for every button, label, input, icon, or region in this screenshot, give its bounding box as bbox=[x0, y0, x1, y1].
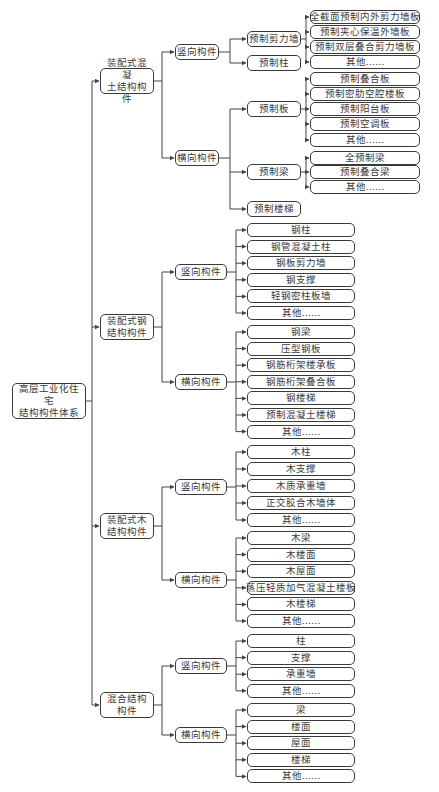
precast-shear-wall-node-label: 预制剪力墙 bbox=[249, 33, 299, 45]
concrete-vertical-node: 竖向构件 bbox=[175, 44, 219, 60]
concrete-structure-node-label: 装配式混凝土结构构件 bbox=[104, 57, 150, 105]
leaf-mixed-horizontal-1: 梁 bbox=[247, 703, 355, 717]
leaf-wood-vertical-1-label: 木柱 bbox=[291, 446, 311, 458]
root-node-label-line-2: 结构构件体系 bbox=[16, 407, 82, 419]
leaf-steel-horizontal-2: 压型钢板 bbox=[247, 342, 355, 356]
wood-vertical-node: 竖向构件 bbox=[175, 479, 227, 495]
root-node-label: 高层工业化住宅结构构件体系 bbox=[16, 383, 82, 419]
root-node-label-line-1: 高层工业化住宅 bbox=[16, 383, 82, 407]
mixed-vertical-node: 竖向构件 bbox=[175, 658, 227, 674]
wood-horizontal-node: 横向构件 bbox=[175, 572, 227, 588]
leaf-steel-vertical-4: 钢支撑 bbox=[247, 273, 355, 287]
leaf-steel-vertical-3: 钢板剪力墙 bbox=[247, 256, 355, 270]
leaf-concrete-slab-1: 预制叠合板 bbox=[310, 72, 420, 86]
leaf-concrete-slab-3-label: 预制阳台板 bbox=[340, 103, 390, 115]
leaf-concrete-slab-2: 预制密肋空腔楼板 bbox=[310, 87, 420, 101]
leaf-steel-horizontal-2-label: 压型钢板 bbox=[281, 343, 321, 355]
leaf-wood-horizontal-3: 木屋面 bbox=[247, 564, 355, 578]
leaf-concrete-slab-3: 预制阳台板 bbox=[310, 102, 420, 116]
leaf-steel-horizontal-7-label: 其他…… bbox=[282, 426, 321, 438]
leaf-steel-horizontal-3: 钢筋桁架楼承板 bbox=[247, 358, 355, 372]
leaf-wood-horizontal-1: 木梁 bbox=[247, 531, 355, 545]
leaf-steel-horizontal-4: 钢筋桁架叠合板 bbox=[247, 375, 355, 389]
leaf-steel-vertical-6-label: 其他…… bbox=[282, 307, 321, 319]
leaf-wood-horizontal-3-label: 木屋面 bbox=[286, 565, 316, 577]
leaf-concrete-beam-2-label: 预制叠合梁 bbox=[340, 166, 390, 178]
leaf-steel-vertical-2: 钢管混凝土柱 bbox=[247, 240, 355, 254]
leaf-steel-vertical-5-label: 轻钢密柱板墙 bbox=[271, 290, 331, 302]
leaf-mixed-vertical-4-label: 其他…… bbox=[282, 685, 321, 697]
leaf-steel-vertical-1: 钢柱 bbox=[247, 223, 355, 237]
leaf-concrete-slab-5: 其他…… bbox=[310, 133, 420, 147]
leaf-wood-vertical-5: 其他…… bbox=[247, 513, 355, 527]
mixed-structure-node: 混合结构构件 bbox=[100, 692, 154, 718]
precast-stair-node: 预制楼梯 bbox=[247, 201, 301, 217]
leaf-concrete-beam-3-label: 其他…… bbox=[346, 181, 385, 193]
steel-structure-node: 装配式钢结构构件 bbox=[100, 314, 154, 340]
precast-slab-node-label: 预制板 bbox=[259, 103, 289, 115]
leaf-wood-vertical-4: 正交胶合木墙体 bbox=[247, 496, 355, 510]
leaf-concrete-wall-1: 全截面预制内外剪力墙板 bbox=[310, 10, 420, 24]
leaf-concrete-wall-4: 其他…… bbox=[310, 55, 420, 69]
mixed-vertical-node-label: 竖向构件 bbox=[181, 660, 221, 672]
leaf-steel-vertical-4-label: 钢支撑 bbox=[286, 274, 316, 286]
leaf-steel-horizontal-6: 预制混凝土楼梯 bbox=[247, 408, 355, 422]
leaf-concrete-beam-1: 全预制梁 bbox=[310, 151, 420, 165]
leaf-wood-horizontal-4-label: 蒸压轻质加气混凝土楼板 bbox=[246, 582, 356, 594]
leaf-steel-vertical-1-label: 钢柱 bbox=[291, 224, 311, 236]
leaf-concrete-beam-1-label: 全预制梁 bbox=[345, 152, 385, 164]
leaf-wood-horizontal-1-label: 木梁 bbox=[291, 532, 311, 544]
leaf-steel-vertical-5: 轻钢密柱板墙 bbox=[247, 289, 355, 303]
leaf-wood-vertical-4-label: 正交胶合木墙体 bbox=[266, 497, 336, 509]
leaf-concrete-wall-3: 预制双层叠合剪力墙板 bbox=[310, 40, 420, 54]
concrete-structure-node: 装配式混凝土结构构件 bbox=[100, 68, 154, 94]
wood-structure-node: 装配式木结构构件 bbox=[100, 513, 154, 539]
precast-beam-node: 预制梁 bbox=[247, 164, 301, 180]
steel-structure-node-label-line-1: 装配式钢 bbox=[107, 315, 147, 327]
leaf-mixed-vertical-1: 柱 bbox=[247, 634, 355, 648]
steel-vertical-node: 竖向构件 bbox=[175, 264, 227, 280]
leaf-steel-horizontal-5-label: 钢楼梯 bbox=[286, 392, 316, 404]
leaf-steel-horizontal-3-label: 钢筋桁架楼承板 bbox=[266, 359, 336, 371]
steel-horizontal-node-label: 横向构件 bbox=[181, 376, 221, 388]
precast-slab-node: 预制板 bbox=[247, 101, 301, 117]
structure-tree-diagram: 高层工业化住宅结构构件体系装配式混凝土结构构件装配式钢结构构件装配式木结构构件混… bbox=[0, 0, 439, 792]
precast-shear-wall-node: 预制剪力墙 bbox=[247, 31, 301, 47]
root-node: 高层工业化住宅结构构件体系 bbox=[12, 383, 86, 419]
concrete-horizontal-node: 横向构件 bbox=[175, 150, 219, 166]
concrete-horizontal-node-label: 横向构件 bbox=[177, 152, 217, 164]
leaf-wood-vertical-1: 木柱 bbox=[247, 445, 355, 459]
leaf-concrete-beam-2: 预制叠合梁 bbox=[310, 165, 420, 179]
leaf-steel-horizontal-1: 钢梁 bbox=[247, 325, 355, 339]
leaf-mixed-horizontal-5-label: 其他…… bbox=[282, 770, 321, 782]
leaf-wood-horizontal-5-label: 木楼梯 bbox=[286, 598, 316, 610]
wood-horizontal-node-label: 横向构件 bbox=[181, 574, 221, 586]
leaf-steel-vertical-3-label: 钢板剪力墙 bbox=[276, 257, 326, 269]
leaf-steel-horizontal-1-label: 钢梁 bbox=[291, 326, 311, 338]
leaf-wood-horizontal-5: 木楼梯 bbox=[247, 597, 355, 611]
wood-structure-node-label: 装配式木结构构件 bbox=[107, 514, 147, 538]
mixed-horizontal-node-label: 横向构件 bbox=[181, 729, 221, 741]
wood-structure-node-label-line-1: 装配式木 bbox=[107, 514, 147, 526]
leaf-mixed-horizontal-4: 楼梯 bbox=[247, 753, 355, 767]
leaf-concrete-wall-4-label: 其他…… bbox=[346, 56, 385, 68]
leaf-concrete-wall-3-label: 预制双层叠合剪力墙板 bbox=[315, 41, 415, 53]
leaf-wood-vertical-2: 木支撑 bbox=[247, 462, 355, 476]
leaf-wood-horizontal-2-label: 木楼面 bbox=[286, 549, 316, 561]
leaf-mixed-vertical-2-label: 支撑 bbox=[291, 652, 311, 664]
leaf-wood-vertical-3-label: 木质承重墙 bbox=[276, 480, 326, 492]
mixed-horizontal-node: 横向构件 bbox=[175, 727, 227, 743]
mixed-structure-node-label: 混合结构构件 bbox=[107, 693, 147, 717]
wood-structure-node-label-line-2: 结构构件 bbox=[107, 526, 147, 538]
leaf-mixed-vertical-4: 其他…… bbox=[247, 684, 355, 698]
leaf-mixed-horizontal-2: 楼面 bbox=[247, 720, 355, 734]
leaf-wood-vertical-2-label: 木支撑 bbox=[286, 463, 316, 475]
concrete-structure-node-label-line-1: 装配式混凝 bbox=[104, 57, 150, 81]
leaf-concrete-wall-2: 预制夹心保温外墙板 bbox=[310, 25, 420, 39]
leaf-wood-horizontal-6: 其他…… bbox=[247, 614, 355, 628]
leaf-wood-horizontal-2: 木楼面 bbox=[247, 548, 355, 562]
concrete-structure-node-label-line-2: 土结构构件 bbox=[104, 81, 150, 105]
leaf-concrete-beam-3: 其他…… bbox=[310, 180, 420, 194]
steel-vertical-node-label: 竖向构件 bbox=[181, 266, 221, 278]
steel-structure-node-label: 装配式钢结构构件 bbox=[107, 315, 147, 339]
